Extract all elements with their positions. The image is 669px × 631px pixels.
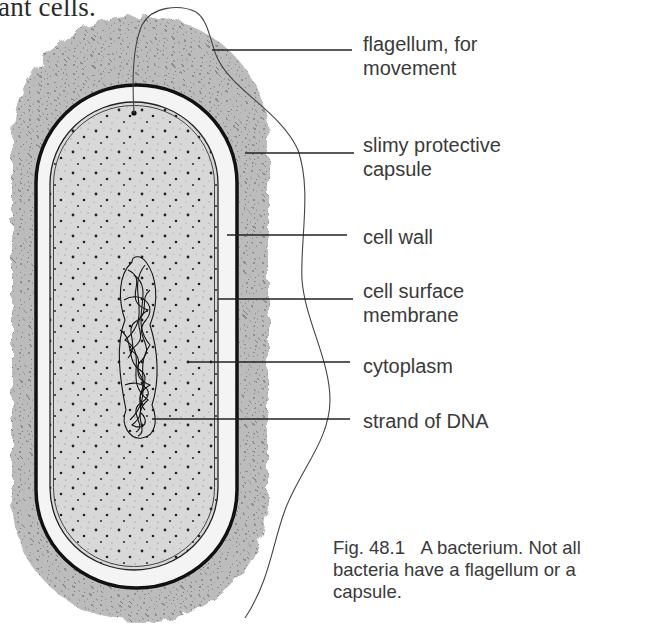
label-cytoplasm: cytoplasm xyxy=(363,354,453,378)
caption-line1: A bacterium. Not all xyxy=(420,537,580,558)
label-membrane-line2: membrane xyxy=(363,303,464,327)
caption-line3: capsule. xyxy=(333,581,669,603)
figure-number: Fig. 48.1 xyxy=(333,537,405,558)
label-flagellum-line2: movement xyxy=(363,56,478,80)
cell-surface-membrane xyxy=(50,102,218,570)
figure-caption: Fig. 48.1 A bacterium. Not all bacteria … xyxy=(333,537,669,603)
label-capsule: slimy protective capsule xyxy=(363,133,501,181)
label-capsule-line1: slimy protective xyxy=(363,133,501,157)
label-membrane-line1: cell surface xyxy=(363,279,464,303)
caption-line2: bacteria have a flagellum or a xyxy=(333,559,669,581)
label-capsule-line2: capsule xyxy=(363,157,501,181)
label-cytoplasm-line1: cytoplasm xyxy=(363,354,453,378)
label-flagellum: flagellum, for movement xyxy=(363,32,478,80)
label-cell-wall-line1: cell wall xyxy=(363,225,433,249)
label-dna-line1: strand of DNA xyxy=(363,409,489,433)
label-flagellum-line1: flagellum, for xyxy=(363,32,478,56)
label-cell-surface-membrane: cell surface membrane xyxy=(363,279,464,327)
label-cell-wall: cell wall xyxy=(363,225,433,249)
label-dna: strand of DNA xyxy=(363,409,489,433)
